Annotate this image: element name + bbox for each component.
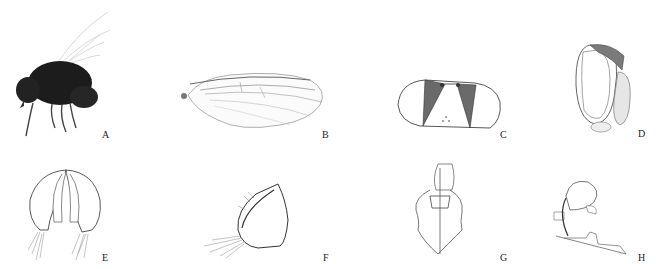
panel-c: C: [380, 50, 520, 140]
panel-e: E: [0, 150, 130, 269]
terminalia-drawing: [0, 150, 130, 269]
panel-f: F: [190, 150, 340, 269]
panel-label-b: B: [322, 130, 329, 140]
panel-label-f: F: [323, 253, 329, 263]
panel-label-a: A: [102, 130, 109, 140]
panel-label-e: E: [102, 253, 108, 263]
panel-label-c: C: [500, 130, 507, 140]
wing-drawing: [160, 50, 340, 140]
panel-d: D: [540, 30, 656, 140]
surstylus-drawing: [190, 150, 340, 269]
head-frontal-drawing: [380, 50, 520, 140]
panel-label-d: D: [638, 129, 645, 139]
fly-habitus-image: [0, 0, 120, 140]
head-lateral-drawing: [540, 30, 656, 140]
panel-h: H: [530, 150, 656, 269]
panel-a: A: [0, 0, 120, 140]
panel-g: G: [390, 150, 520, 269]
panel-label-h: H: [638, 253, 645, 263]
panel-b: B: [160, 50, 340, 140]
panel-label-g: G: [500, 253, 507, 263]
